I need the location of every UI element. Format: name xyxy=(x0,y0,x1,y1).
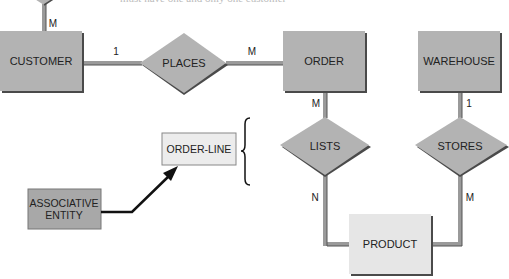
er-diagram xyxy=(0,0,509,279)
brace xyxy=(241,118,250,185)
cardinality-warehouse-stores: 1 xyxy=(466,98,472,110)
entity-warehouse-label: WAREHOUSE xyxy=(423,55,495,67)
relationship-stores-label: STORES xyxy=(437,140,482,152)
entity-order-line-label: ORDER-LINE xyxy=(167,143,232,155)
cardinality-stores-product: M xyxy=(466,192,474,204)
entity-customer-label: CUSTOMER xyxy=(10,55,73,67)
relationship-places-label: PLACES xyxy=(162,57,205,69)
connectors xyxy=(44,4,462,246)
cardinality-lists-product: N xyxy=(311,192,318,204)
cardinality-order-lists: M xyxy=(312,98,320,110)
entity-order-label: ORDER xyxy=(304,55,344,67)
cardinality-top-customer: M xyxy=(49,18,57,30)
relationship-lists-label: LISTS xyxy=(310,140,341,152)
cardinality-places-order: M xyxy=(248,46,256,58)
entity-product-label: PRODUCT xyxy=(363,238,417,250)
arrow-to-order-line xyxy=(101,166,178,212)
legend-associative-entity-label: ASSOCIATIVE ENTITY xyxy=(29,197,99,221)
cardinality-customer-places: 1 xyxy=(113,46,119,58)
